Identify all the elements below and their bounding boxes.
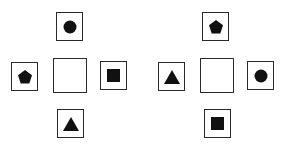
triangle-icon [63,117,79,131]
left-cross-left-box: pentagon [11,62,38,91]
right-cross-center-box: empty [200,58,234,93]
left-cross-bottom-box: triangle [57,109,84,138]
left-cross-center-box: empty [53,58,87,93]
right-cross-right-box: circle [247,61,274,90]
square-icon [107,69,120,82]
square-icon [211,117,224,130]
right-cross-top-box: pentagon [202,12,229,41]
left-cross-top-box: circle [56,12,83,41]
circle-icon [254,69,268,83]
right-cross-bottom-box: square [204,109,231,138]
pentagon-icon [17,69,33,85]
triangle-icon [164,70,180,84]
pentagon-icon [208,19,224,35]
left-cross-right-box: square [100,61,127,90]
right-cross-left-box: triangle [158,62,185,91]
circle-icon [63,20,77,34]
